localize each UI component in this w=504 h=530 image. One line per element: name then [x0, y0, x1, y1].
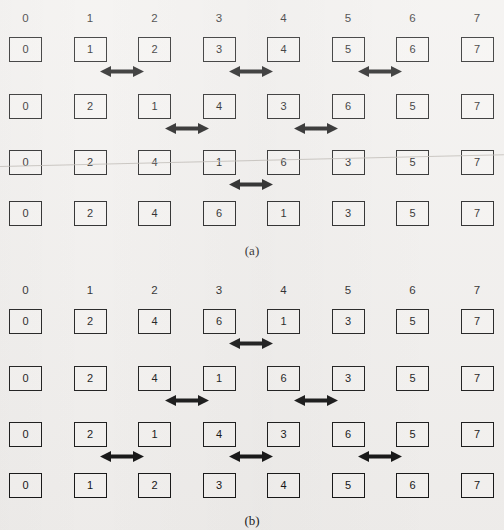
element-row: 02461357	[0, 309, 504, 336]
element-box: 5	[332, 473, 365, 498]
element-box: 3	[267, 94, 300, 119]
element-box: 0	[9, 94, 42, 119]
element-box: 3	[332, 201, 365, 226]
element-box: 1	[138, 94, 171, 119]
double-headed-arrow-icon	[229, 178, 273, 192]
element-box: 6	[332, 422, 365, 447]
element-box: 1	[74, 37, 107, 62]
element-box: 6	[267, 150, 300, 175]
element-box: 6	[267, 366, 300, 391]
column-header-6: 6	[396, 280, 430, 300]
element-box: 4	[267, 473, 300, 498]
double-headed-arrow-icon	[100, 65, 144, 79]
element-box: 3	[203, 37, 236, 62]
double-headed-arrow-icon	[229, 337, 273, 351]
element-box: 7	[461, 150, 494, 175]
element-box: 3	[332, 150, 365, 175]
element-box: 5	[332, 37, 365, 62]
element-row: 02143657	[0, 94, 504, 121]
compare-exchange-arrow-row	[0, 337, 504, 353]
element-box: 1	[203, 150, 236, 175]
double-headed-arrow-icon	[165, 122, 209, 136]
element-box: 5	[396, 150, 429, 175]
element-box: 0	[9, 309, 42, 334]
element-box: 3	[332, 309, 365, 334]
column-header-row: 01234567	[0, 280, 504, 300]
double-headed-arrow-icon	[294, 394, 338, 408]
element-box: 2	[74, 422, 107, 447]
element-box: 5	[396, 94, 429, 119]
caption-a: (a)	[0, 243, 504, 259]
column-header-1: 1	[73, 8, 107, 28]
element-box: 0	[9, 201, 42, 226]
element-box: 1	[74, 473, 107, 498]
element-box: 2	[74, 150, 107, 175]
element-box: 1	[267, 309, 300, 334]
column-header-5: 5	[331, 8, 365, 28]
element-row: 02416357	[0, 150, 504, 177]
element-box: 0	[9, 37, 42, 62]
element-box: 2	[74, 366, 107, 391]
element-box: 0	[9, 422, 42, 447]
column-header-4: 4	[267, 8, 301, 28]
double-headed-arrow-icon	[229, 65, 273, 79]
element-box: 7	[461, 309, 494, 334]
column-header-3: 3	[202, 8, 236, 28]
element-row: 01234567	[0, 37, 504, 64]
column-header-4: 4	[267, 280, 301, 300]
element-box: 5	[396, 309, 429, 334]
column-header-2: 2	[138, 8, 172, 28]
element-box: 6	[332, 94, 365, 119]
element-box: 0	[9, 150, 42, 175]
double-headed-arrow-icon	[358, 65, 402, 79]
caption-b: (b)	[0, 513, 504, 529]
element-box: 5	[396, 201, 429, 226]
element-box: 3	[332, 366, 365, 391]
element-box: 4	[203, 422, 236, 447]
double-headed-arrow-icon	[100, 450, 144, 464]
column-header-0: 0	[9, 8, 43, 28]
element-box: 1	[203, 366, 236, 391]
column-header-2: 2	[138, 280, 172, 300]
element-box: 1	[138, 422, 171, 447]
column-header-5: 5	[331, 280, 365, 300]
element-box: 6	[396, 473, 429, 498]
column-header-6: 6	[396, 8, 430, 28]
element-box: 2	[74, 94, 107, 119]
compare-exchange-arrow-row	[0, 394, 504, 410]
element-box: 0	[9, 473, 42, 498]
element-box: 7	[461, 366, 494, 391]
column-header-1: 1	[73, 280, 107, 300]
compare-exchange-arrow-row	[0, 450, 504, 466]
element-box: 7	[461, 37, 494, 62]
element-row: 02461357	[0, 201, 504, 228]
column-header-7: 7	[460, 280, 494, 300]
element-box: 5	[396, 422, 429, 447]
element-row: 02416357	[0, 366, 504, 393]
column-header-7: 7	[460, 8, 494, 28]
double-headed-arrow-icon	[358, 450, 402, 464]
element-box: 4	[138, 150, 171, 175]
compare-exchange-arrow-row	[0, 122, 504, 138]
element-box: 2	[74, 309, 107, 334]
element-box: 4	[203, 94, 236, 119]
element-box: 1	[267, 201, 300, 226]
element-row: 02143657	[0, 422, 504, 449]
double-headed-arrow-icon	[165, 394, 209, 408]
compare-exchange-arrow-row	[0, 178, 504, 194]
double-headed-arrow-icon	[229, 450, 273, 464]
column-header-0: 0	[9, 280, 43, 300]
element-box: 5	[396, 366, 429, 391]
element-box: 6	[203, 309, 236, 334]
element-box: 3	[267, 422, 300, 447]
element-box: 4	[138, 201, 171, 226]
element-box: 4	[138, 366, 171, 391]
element-box: 7	[461, 473, 494, 498]
element-box: 2	[138, 473, 171, 498]
element-box: 2	[74, 201, 107, 226]
figure-canvas: 0123456701234567021436570241635702461357…	[0, 0, 504, 530]
element-box: 7	[461, 422, 494, 447]
element-box: 4	[138, 309, 171, 334]
element-row: 01234567	[0, 473, 504, 500]
double-headed-arrow-icon	[294, 122, 338, 136]
